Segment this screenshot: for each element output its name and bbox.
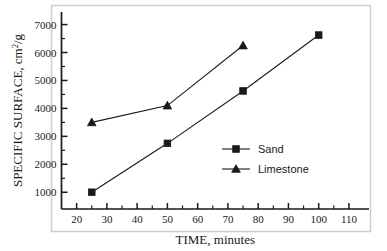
x-tick-label: 110 (341, 213, 358, 225)
legend-marker-square (233, 146, 240, 153)
data-point-triangle (239, 41, 248, 49)
x-tick-label: 20 (71, 213, 83, 225)
y-tick-label: 7000 (35, 19, 58, 31)
x-tick-label: 40 (132, 213, 144, 225)
y-tick-label: 1000 (35, 186, 58, 198)
data-point-square (88, 189, 95, 196)
y-tick-label: 4000 (35, 102, 58, 114)
series-line (92, 46, 243, 123)
x-axis-title: TIME, minutes (176, 232, 255, 247)
chart-legend: SandLimestone (222, 143, 309, 175)
data-point-triangle (163, 101, 172, 109)
data-point-square (164, 140, 171, 147)
data-point-square (240, 88, 247, 95)
outer-frame (52, 6, 371, 232)
y-tick-label: 5000 (35, 74, 58, 86)
chart-figure: 2030405060708090100110100020003000400050… (0, 0, 387, 251)
x-axis-ticks: 2030405060708090100110 (71, 203, 357, 225)
y-tick-label: 2000 (35, 158, 58, 170)
y-tick-label: 3000 (35, 130, 58, 142)
legend-label-sand: Sand (258, 143, 284, 155)
x-tick-label: 80 (253, 213, 265, 225)
x-tick-label: 30 (101, 213, 113, 225)
series-limestone (87, 41, 247, 125)
x-tick-label: 50 (162, 213, 174, 225)
x-tick-label: 70 (222, 213, 234, 225)
y-tick-label: 6000 (35, 47, 58, 59)
x-tick-label: 60 (192, 213, 204, 225)
legend-label-limestone: Limestone (258, 163, 309, 175)
x-tick-label: 90 (283, 213, 295, 225)
data-point-square (315, 32, 322, 39)
x-tick-label: 100 (310, 213, 327, 225)
y-axis-title: SPECIFIC SURFACE, cm2/g (10, 33, 25, 187)
specific-surface-vs-time-line-chart: 2030405060708090100110100020003000400050… (0, 0, 387, 251)
